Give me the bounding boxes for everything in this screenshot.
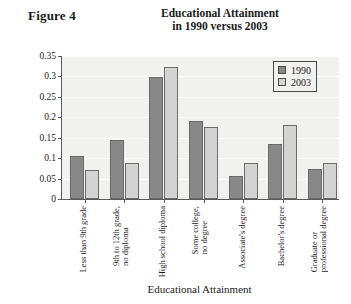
legend-swatch-icon	[278, 78, 286, 86]
y-tick-label: 0	[26, 194, 56, 204]
x-tick-label-line-1: Less than 9th grade	[78, 206, 88, 272]
x-tick-label: 9th to 12th grade,no diploma	[112, 206, 130, 266]
x-tick-mark	[283, 199, 284, 203]
bar-2003[interactable]	[204, 127, 218, 199]
y-tick-label: 0.35	[26, 51, 56, 61]
x-tick-mark	[204, 199, 205, 203]
legend-swatch-icon	[278, 66, 286, 74]
bar-2003[interactable]	[283, 125, 297, 199]
bar-1990[interactable]	[189, 121, 203, 199]
bar-1990[interactable]	[229, 176, 243, 199]
x-tick-mark	[124, 199, 125, 203]
chart-title-line-2: in 1990 versus 2003	[120, 20, 320, 33]
x-tick-label: High school diploma	[158, 206, 167, 277]
figure-label: Figure 4	[28, 8, 76, 24]
bar-group	[229, 56, 258, 199]
x-tick-mark	[85, 199, 86, 203]
legend-item-2003[interactable]: 2003	[278, 76, 311, 88]
x-tick-mark	[322, 199, 323, 203]
plot-area: 00.050.10.150.20.250.30.35 Less than 9th…	[61, 56, 339, 200]
y-tick-mark	[58, 199, 62, 200]
y-tick-label: 0.2	[26, 112, 56, 122]
x-tick-label: Some college,no degree	[191, 206, 209, 254]
bar-group	[189, 56, 218, 199]
x-axis-title: Educational Attainment	[61, 283, 338, 295]
legend-label: 2003	[291, 77, 311, 88]
y-tick-label: 0.25	[26, 92, 56, 102]
y-tick-label: 0.05	[26, 174, 56, 184]
bar-1990[interactable]	[308, 169, 322, 199]
x-tick-label: Associate's degree	[238, 206, 247, 269]
legend-item-1990[interactable]: 1990	[278, 64, 311, 76]
bar-1990[interactable]	[268, 144, 282, 199]
bar-2003[interactable]	[244, 163, 258, 199]
x-tick-mark	[243, 199, 244, 203]
x-tick-label-line-1: Associate's degree	[237, 206, 247, 269]
bar-1990[interactable]	[149, 77, 163, 199]
x-tick-mark	[164, 199, 165, 203]
bar-1990[interactable]	[70, 156, 84, 199]
x-tick-label-line-2: professional degree	[319, 206, 328, 272]
chart-legend: 19902003	[273, 61, 317, 92]
y-tick-label: 0.3	[26, 71, 56, 81]
bar-2003[interactable]	[164, 67, 178, 199]
bar-group	[70, 56, 99, 199]
x-tick-label: Less than 9th grade	[79, 206, 88, 272]
x-tick-label-line-2: no diploma	[121, 206, 130, 266]
bar-1990[interactable]	[110, 140, 124, 199]
x-tick-label: Bachelor's degree	[277, 206, 286, 266]
bar-2003[interactable]	[85, 170, 99, 199]
bar-group	[110, 56, 139, 199]
chart-title-line-1: Educational Attainment	[120, 7, 320, 20]
legend-label: 1990	[291, 65, 311, 76]
x-tick-label: Graduate orprofessional degree	[310, 206, 328, 272]
y-tick-label: 0.15	[26, 133, 56, 143]
bar-group	[149, 56, 178, 199]
y-tick-label: 0.1	[26, 153, 56, 163]
x-tick-label-line-2: no degree	[200, 206, 209, 254]
chart-title: Educational Attainment in 1990 versus 20…	[120, 7, 320, 33]
x-tick-label-line-1: Bachelor's degree	[276, 206, 286, 266]
bar-2003[interactable]	[125, 163, 139, 199]
bar-2003[interactable]	[323, 163, 337, 199]
x-tick-label-line-1: High school diploma	[157, 206, 167, 277]
